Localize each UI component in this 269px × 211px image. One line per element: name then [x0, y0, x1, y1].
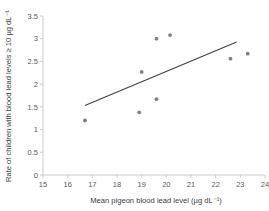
trend-line-segment	[85, 42, 237, 106]
x-axis-ticks: 15161718192021222324	[39, 175, 269, 189]
y-tick-label: 0	[34, 171, 38, 180]
data-point-marker	[137, 110, 141, 114]
axes	[43, 16, 265, 175]
data-point-marker	[155, 97, 159, 101]
x-tick-label: 23	[236, 180, 244, 189]
data-point-marker	[246, 52, 250, 56]
y-tick-label: 1.5	[28, 103, 38, 112]
data-point-marker	[168, 33, 172, 37]
y-tick-label: 1	[34, 125, 38, 134]
x-tick-label: 19	[137, 180, 145, 189]
data-point-marker	[140, 70, 144, 74]
data-point-marker	[83, 119, 87, 123]
x-tick-label: 15	[39, 180, 47, 189]
x-tick-label: 22	[211, 180, 219, 189]
y-axis-label: Rate of children with blood lead levels …	[4, 9, 13, 182]
y-tick-label: 0.5	[28, 148, 38, 157]
x-tick-label: 17	[88, 180, 96, 189]
y-tick-label: 3	[34, 34, 38, 43]
x-tick-label: 24	[261, 180, 269, 189]
x-tick-label: 21	[187, 180, 195, 189]
x-tick-label: 20	[162, 180, 170, 189]
x-tick-label: 18	[113, 180, 121, 189]
scatter-plot: 00.511.522.533.5 15161718192021222324 Me…	[0, 0, 269, 211]
y-tick-label: 3.5	[28, 12, 38, 21]
trend-line	[85, 42, 237, 106]
x-axis-label: Mean pigeon blood lead level (µg dL⁻¹)	[90, 196, 222, 205]
y-tick-label: 2.5	[28, 57, 38, 66]
chart-figure: 00.511.522.533.5 15161718192021222324 Me…	[0, 0, 269, 211]
x-tick-label: 16	[63, 180, 71, 189]
y-tick-label: 2	[34, 80, 38, 89]
data-point-marker	[155, 37, 159, 41]
y-axis-ticks: 00.511.522.533.5	[28, 12, 43, 180]
data-point-marker	[229, 57, 233, 61]
